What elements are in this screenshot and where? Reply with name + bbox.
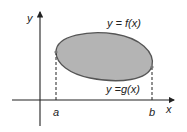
lower-curve-label: y =g(x) <box>105 83 140 95</box>
point-b <box>150 65 153 68</box>
bound-a-label: a <box>53 106 59 118</box>
x-axis-label: x <box>165 103 172 115</box>
upper-curve-label: y = f(x) <box>106 17 141 29</box>
shaded-region <box>56 33 152 81</box>
bound-b-label: b <box>149 106 155 118</box>
y-axis-label: y <box>26 12 34 24</box>
point-a <box>54 50 57 53</box>
area-between-curves-diagram: y x y = f(x) y =g(x) a b <box>0 0 187 132</box>
